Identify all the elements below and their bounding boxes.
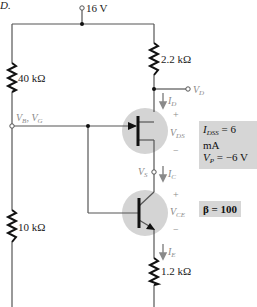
resistor-2k2 (150, 43, 158, 75)
resistor-1k2-label: 1.2 kΩ (161, 266, 191, 277)
circuit-diagram: D. 16 V 40 kΩ 10 kΩ 2.2 kΩ 1.2 kΩ VD VB,… (0, 0, 257, 307)
idss-param: IDSS = 6 mA (203, 123, 253, 151)
vd-terminal-icon (186, 87, 190, 91)
ie-arrow-icon (160, 253, 166, 259)
id-label: ID (168, 96, 176, 108)
vs-terminal-icon (152, 170, 156, 174)
vds-minus: − (173, 146, 179, 156)
supply-label: 16 V (86, 3, 108, 14)
ie-label: IE (168, 247, 176, 259)
resistor-40k (8, 63, 16, 92)
resistor-1k2 (150, 258, 158, 285)
jfet-body (122, 108, 168, 154)
vce-minus: − (173, 225, 179, 235)
header-fragment: D. (0, 0, 11, 11)
resistor-10k-label: 10 kΩ (18, 222, 45, 233)
vce-plus: + (173, 190, 179, 200)
resistor-2k2-label: 2.2 kΩ (161, 54, 191, 65)
junction-dot (152, 87, 156, 91)
vbvg-terminal-icon (10, 124, 14, 128)
ic-arrow-icon (160, 175, 166, 181)
resistor-40k-label: 40 kΩ (18, 73, 45, 84)
bjt-beta-box: β = 100 (199, 201, 241, 217)
id-arrow-icon (160, 102, 166, 108)
vd-label: VD (193, 85, 204, 97)
resistor-10k (8, 210, 16, 242)
vp-param: VP = −6 V (203, 151, 253, 167)
vds-label: VDS (170, 128, 185, 140)
supply-terminal-icon (80, 6, 84, 10)
vds-plus: + (173, 110, 179, 120)
ic-label: IC (168, 169, 176, 181)
jfet-params-box: IDSS = 6 mA VP = −6 V (199, 121, 257, 169)
vbvg-label: VB, VG (16, 113, 43, 125)
junction-dot (86, 124, 90, 128)
junction-dot (80, 22, 84, 26)
vce-label: VCE (170, 207, 185, 219)
vs-label: VS (138, 167, 148, 179)
